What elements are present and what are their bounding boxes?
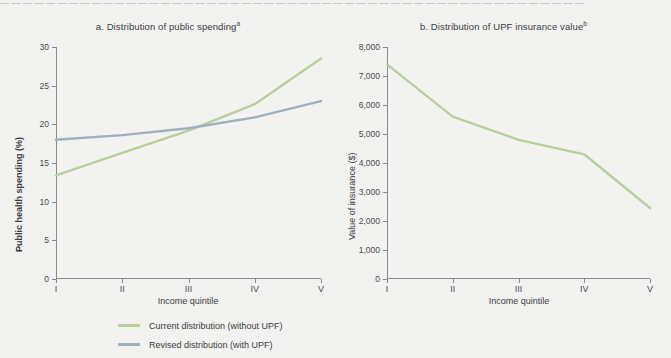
panel-b-ytick [383, 76, 387, 77]
panel-a-xtick-label: III [185, 284, 193, 294]
panel-a-ytick-label: 25 [40, 81, 49, 91]
panel-b-ytick-label: 5,000 [359, 129, 380, 139]
panel-b-plot-area: 01,0002,0003,0004,0005,0006,0007,0008,00… [387, 47, 650, 279]
panel-a-xtick [56, 279, 57, 283]
chart-legend: Current distribution (without UPF)Revise… [118, 316, 283, 354]
panel-b-xtick [387, 279, 388, 283]
panel-a-series-line [56, 101, 321, 140]
panel-a-xtick-label: I [55, 284, 58, 294]
panel-a-xtick-label: V [318, 284, 324, 294]
legend-line-swatch-icon [118, 324, 140, 327]
panel-a-xtick [255, 279, 256, 283]
panel-a-xtick [122, 279, 123, 283]
panel-b-xtick [650, 279, 651, 283]
panel-a-ytick [52, 124, 56, 125]
panel-a-xtick [321, 279, 322, 283]
panel-b-ytick [383, 105, 387, 106]
panel-a-title-superscript: a [237, 20, 241, 27]
panel-a-xtick-label: IV [250, 284, 259, 294]
figure-container: — — — — — — — — — — — — — — — — — — — — … [0, 0, 671, 358]
panel-b-ytick-label: 8,000 [359, 42, 380, 52]
panel-b-xtick-label: III [515, 284, 523, 294]
panel-a-ytick [52, 240, 56, 241]
panel-b-ytick [383, 250, 387, 251]
panel-b-xtick-label: V [647, 284, 653, 294]
panel-b-ytick [383, 192, 387, 193]
panel-b-ytick-label: 7,000 [359, 71, 380, 81]
legend-line-swatch-icon [118, 343, 140, 346]
panel-b-title: b. Distribution of UPF insurance valueb [336, 20, 671, 32]
panel-a-ytick [52, 163, 56, 164]
panel-b-xtick [453, 279, 454, 283]
panel-a-series-layer [56, 47, 321, 279]
panel-b-series-line [387, 64, 650, 208]
panel-a-title-text: a. Distribution of public spending [96, 21, 237, 32]
panel-b-ytick [383, 163, 387, 164]
panel-b-xlabel: Income quintile [489, 296, 550, 306]
panel-a-xtick [189, 279, 190, 283]
panel-a-xtick-label: II [120, 284, 125, 294]
panel-b-ytick [383, 134, 387, 135]
panel-a-ytick [52, 202, 56, 203]
panel-a-ytick-label: 15 [40, 158, 49, 168]
panel-b-xtick-label: II [450, 284, 455, 294]
panel-a-title: a. Distribution of public spendinga [0, 20, 336, 32]
panel-b-ytick [383, 47, 387, 48]
panel-b-xtick [519, 279, 520, 283]
panel-b-ytick-label: 3,000 [359, 187, 380, 197]
panel-a-ytick-label: 5 [44, 235, 49, 245]
panel-b-ytick [383, 221, 387, 222]
panel-a-ytick-label: 30 [40, 42, 49, 52]
panel-b-ytick-label: 0 [375, 274, 380, 284]
panel-a-ytick [52, 86, 56, 87]
panel-a-plot-area: 051015202530IIIIIIIVV [56, 47, 321, 279]
panel-b-series-layer [387, 47, 650, 279]
panel-b-ytick-label: 2,000 [359, 216, 380, 226]
panel-b-xtick-label: IV [580, 284, 589, 294]
panel-a-ytick [52, 47, 56, 48]
panel-a-xlabel: Income quintile [158, 296, 219, 306]
panel-b-title-superscript: b [583, 20, 587, 27]
panel-b-ytick-label: 1,000 [359, 245, 380, 255]
panel-a: a. Distribution of public spendinga Publ… [0, 0, 336, 310]
panel-b-xtick [584, 279, 585, 283]
panel-b-ylabel: Value of insurance ($) [347, 153, 357, 240]
panel-b-title-text: b. Distribution of UPF insurance value [420, 21, 583, 32]
legend-label: Revised distribution (with UPF) [149, 340, 273, 350]
legend-label: Current distribution (without UPF) [149, 321, 283, 331]
legend-item[interactable]: Revised distribution (with UPF) [118, 335, 283, 354]
panel-a-ytick-label: 0 [44, 274, 49, 284]
panel-b-ytick-label: 6,000 [359, 100, 380, 110]
panel-a-series-line [56, 59, 321, 176]
panel-b-xtick-label: I [386, 284, 389, 294]
panel-a-ylabel: Public health spending (%) [14, 137, 24, 252]
panel-a-ytick-label: 10 [40, 197, 49, 207]
panel-a-ytick-label: 20 [40, 119, 49, 129]
panel-b-ytick-label: 4,000 [359, 158, 380, 168]
legend-item[interactable]: Current distribution (without UPF) [118, 316, 283, 335]
